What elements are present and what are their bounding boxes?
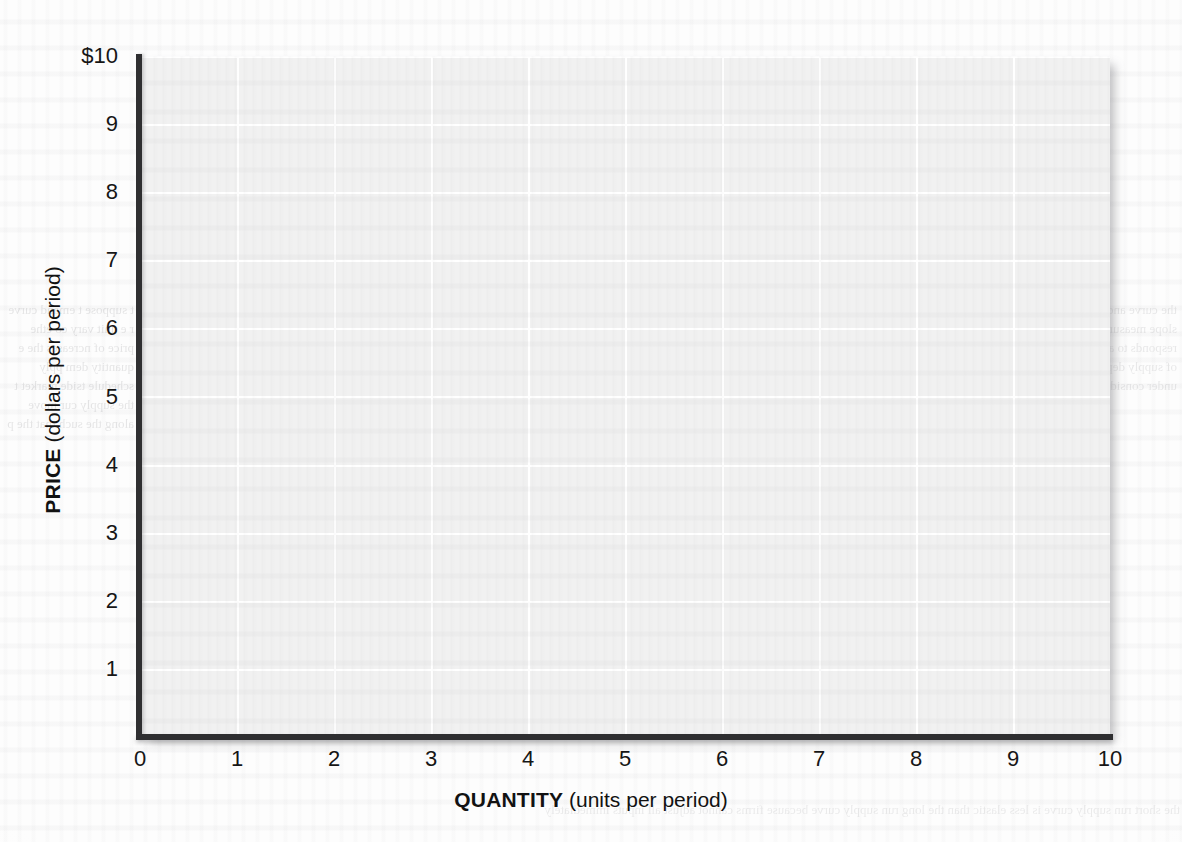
x-tick-10: 10 [1070,748,1150,770]
x-axis-title-strong: QUANTITY [454,788,563,811]
y-axis-title-strong: PRICE [41,448,64,513]
y-axis-title: PRICE (dollars per period) [36,270,70,510]
x-axis-line [136,734,1113,740]
y-tick-9: 9 [8,113,118,135]
x-tick-3: 3 [391,748,471,770]
y-tick-3: 3 [8,522,118,544]
plot-area[interactable] [140,56,1110,737]
page-background: t suppose t emand curve r e unit vary co… [0,0,1182,842]
x-tick-1: 1 [197,748,277,770]
y-axis-title-sub: (dollars per period) [41,266,64,442]
y-tick-10: $10 [8,45,118,67]
grid-lines [140,56,1110,737]
y-axis-line [136,54,142,740]
x-tick-4: 4 [488,748,568,770]
x-tick-9: 9 [973,748,1053,770]
x-tick-7: 7 [779,748,859,770]
y-tick-1: 1 [8,658,118,680]
x-tick-8: 8 [876,748,956,770]
x-axis-title: QUANTITY (units per period) [0,788,1182,812]
y-tick-2: 2 [8,590,118,612]
x-axis-title-sub: (units per period) [569,788,728,811]
x-tick-2: 2 [294,748,374,770]
price-quantity-chart: $10 9 8 7 6 5 4 3 2 1 0 1 2 3 4 5 6 7 8 … [0,0,1182,842]
x-tick-6: 6 [682,748,762,770]
y-tick-8: 8 [8,181,118,203]
x-tick-5: 5 [585,748,665,770]
x-tick-0: 0 [100,748,180,770]
